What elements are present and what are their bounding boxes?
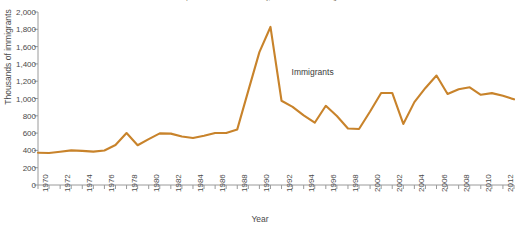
x-axis-tick-label: 1980: [152, 174, 161, 192]
series-annotation-immigrants: Immigrants: [292, 67, 334, 77]
y-axis-tick-label: 800: [2, 111, 36, 120]
y-axis-tick-label: 1,600: [2, 42, 36, 51]
x-axis-tick-label: 2004: [417, 174, 426, 192]
x-axis-tick-label: 1978: [130, 174, 139, 192]
y-axis-tick-label: 2,000: [2, 8, 36, 17]
y-axis-tick-label: 200: [2, 163, 36, 172]
x-axis-tick-label: 1986: [218, 174, 227, 192]
x-axis-title: Year: [0, 214, 520, 224]
chart-plot-area: [0, 0, 520, 229]
source-note: Source: U.S. Department of Homeland Secu…: [0, 0, 520, 1]
x-axis-tick-label: 1990: [262, 174, 271, 192]
x-axis-tick-label: 2000: [373, 174, 382, 192]
y-axis-tick-labels: 02004006008001,0001,2001,4001,6001,8002,…: [0, 0, 36, 229]
x-axis-tick-label: 1970: [41, 174, 50, 192]
x-axis-tick-label: 1974: [85, 174, 94, 192]
x-axis-tick-label: 2002: [395, 174, 404, 192]
y-axis-tick-label: 400: [2, 146, 36, 155]
x-axis-tick-label: 1976: [107, 174, 116, 192]
x-axis-tick-label: 1998: [351, 174, 360, 192]
y-axis-tick-label: 1,400: [2, 59, 36, 68]
x-axis-tick-label: 1984: [196, 174, 205, 192]
x-axis-tick-label: 1996: [329, 174, 338, 192]
y-axis-tick-label: 1,000: [2, 94, 36, 103]
x-axis-tick-label: 1994: [307, 174, 316, 192]
immigration-line-chart-figure: Source: U.S. Department of Homeland Secu…: [0, 0, 520, 229]
x-axis-tick-label: 2008: [462, 174, 471, 192]
x-axis-tick-label: 1972: [63, 174, 72, 192]
x-axis-tick-label: 2012: [506, 174, 515, 192]
x-axis-tick-label: 1992: [285, 174, 294, 192]
y-axis-tick-label: 600: [2, 129, 36, 138]
x-axis-tick-label: 2010: [484, 174, 493, 192]
x-axis-tick-label: 2006: [440, 174, 449, 192]
x-axis-tick-label: 1982: [174, 174, 183, 192]
y-axis-tick-label: 1,200: [2, 77, 36, 86]
y-axis-tick-label: 1,800: [2, 25, 36, 34]
y-axis-tick-label: 0: [2, 181, 36, 190]
x-axis-tick-label: 1988: [240, 174, 249, 192]
